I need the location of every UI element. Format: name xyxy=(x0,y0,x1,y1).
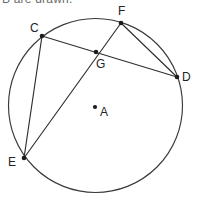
point-label-d: D xyxy=(182,71,191,83)
point-label-c: C xyxy=(30,22,39,34)
geometry-figure: B are drawn. C F D G E A xyxy=(0,0,198,204)
vertex-point-e xyxy=(22,156,27,161)
vertex-point-f xyxy=(119,21,124,26)
point-label-a: A xyxy=(100,106,108,118)
point-label-f: F xyxy=(118,5,125,17)
vertex-point-g xyxy=(94,50,99,55)
center-point-a xyxy=(93,105,97,109)
vertex-point-c xyxy=(40,34,45,39)
point-label-e: E xyxy=(8,156,16,168)
chord-c-d xyxy=(42,36,177,77)
chord-c-e xyxy=(24,36,42,158)
point-label-g: G xyxy=(96,58,105,70)
vertex-point-d xyxy=(175,75,180,80)
chord-e-f xyxy=(24,23,121,158)
